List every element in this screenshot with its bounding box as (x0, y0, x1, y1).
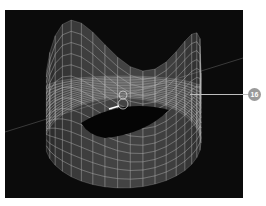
mesh-face (118, 169, 131, 179)
mesh-face (130, 145, 143, 154)
mesh-face (62, 54, 71, 67)
mesh-face (197, 68, 200, 78)
3d-viewport[interactable] (5, 10, 243, 198)
mesh-face (118, 160, 131, 171)
mesh-face (130, 162, 143, 171)
callout-number-badge: 16 (248, 88, 261, 101)
mesh-face (118, 84, 131, 86)
mesh-face (118, 179, 131, 188)
mesh-face (105, 177, 118, 188)
mesh-face (62, 65, 71, 77)
mesh-face (55, 119, 62, 129)
mesh-face (130, 170, 143, 179)
callout-leader-line (190, 94, 250, 95)
wireframe-surface[interactable] (46, 20, 201, 188)
mesh-face (130, 153, 143, 162)
mesh-face (118, 78, 131, 80)
mesh-face (118, 79, 131, 81)
scene-canvas[interactable] (5, 10, 243, 198)
mesh-face (118, 86, 131, 88)
mesh-face (130, 136, 143, 145)
mesh-face (118, 76, 131, 78)
mesh-face (130, 178, 143, 188)
